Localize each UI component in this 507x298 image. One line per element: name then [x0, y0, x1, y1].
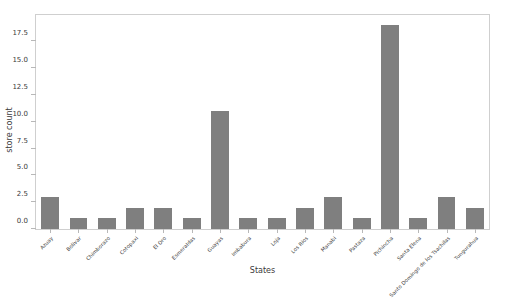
- x-axis-tick-mark: [107, 229, 108, 233]
- x-axis-tick-mark: [305, 229, 306, 233]
- x-axis-title: States: [35, 266, 490, 275]
- bar-slot: Loja: [263, 15, 291, 229]
- x-axis-tick-label: Pastaza: [347, 235, 366, 254]
- bar-slot: Santo Domingo de los Tsachilas: [432, 15, 460, 229]
- bar-slot: Manabi: [319, 15, 347, 229]
- bar-slot: Bolivar: [64, 15, 92, 229]
- bar-slot: Los Rios: [291, 15, 319, 229]
- bar-slot: Guayas: [206, 15, 234, 229]
- bar-slot: Pichincha: [376, 15, 404, 229]
- x-axis-tick-label: Los Rios: [290, 235, 310, 255]
- x-axis-tick-label: Chimborazo: [84, 235, 111, 262]
- x-axis-tick-label: Santa Elena: [396, 235, 423, 262]
- bar: [381, 25, 399, 229]
- x-axis-tick-mark: [135, 229, 136, 233]
- x-axis-tick-mark: [418, 229, 419, 233]
- x-axis-tick-label: Esmeraldas: [170, 235, 196, 261]
- bar-slot: Esmeraldas: [178, 15, 206, 229]
- bar: [126, 208, 144, 229]
- y-axis-tick-label: 5.0: [17, 163, 28, 171]
- x-axis-tick-mark: [163, 229, 164, 233]
- x-axis-tick-label: Cotopaxi: [119, 235, 140, 256]
- x-axis-tick-mark: [78, 229, 79, 233]
- bar-slot: Azuay: [36, 15, 64, 229]
- x-axis-tick-label: Pichincha: [372, 235, 394, 257]
- y-axis-tick-label: 2.5: [17, 190, 28, 198]
- x-axis-tick-label: Tungurahua: [453, 235, 479, 261]
- bar: [268, 218, 286, 229]
- x-axis-tick-mark: [50, 229, 51, 233]
- bar-slot: Santa Elena: [404, 15, 432, 229]
- x-axis-tick-label: El Oro: [152, 235, 168, 251]
- x-axis-tick-mark: [248, 229, 249, 233]
- x-axis-tick-label: Manabi: [320, 235, 338, 253]
- bar: [70, 218, 88, 229]
- x-axis-tick-label: Guayas: [206, 235, 224, 253]
- bar: [211, 111, 229, 229]
- x-axis-tick-label: Azuay: [39, 235, 55, 251]
- bar: [154, 208, 172, 229]
- bar: [409, 218, 427, 229]
- x-axis-tick-mark: [220, 229, 221, 233]
- y-axis-tick-label: 7.5: [17, 137, 28, 145]
- x-axis-tick-label: Loja: [269, 235, 281, 247]
- plot-axes-area: store count 0.02.55.07.510.012.515.017.5…: [35, 14, 490, 230]
- bar: [41, 197, 59, 229]
- x-axis-tick-label: Imbabura: [230, 235, 252, 257]
- bar-slot: Chimborazo: [93, 15, 121, 229]
- x-axis-tick-mark: [447, 229, 448, 233]
- bar-slot: Pastaza: [347, 15, 375, 229]
- x-axis-tick-mark: [475, 229, 476, 233]
- bar: [183, 218, 201, 229]
- bar-slot: Cotopaxi: [121, 15, 149, 229]
- bar: [239, 218, 257, 229]
- y-axis-tick-label: 12.5: [12, 83, 28, 91]
- bar: [324, 197, 342, 229]
- bar-series: AzuayBolivarChimborazoCotopaxiEl OroEsme…: [36, 15, 489, 229]
- bar-slot: El Oro: [149, 15, 177, 229]
- bar-slot: Imbabura: [234, 15, 262, 229]
- bar: [466, 208, 484, 229]
- x-axis-tick-mark: [390, 229, 391, 233]
- y-axis-tick-label: 17.5: [12, 29, 28, 37]
- bar: [353, 218, 371, 229]
- bar: [98, 218, 116, 229]
- x-axis-tick-mark: [192, 229, 193, 233]
- x-axis-tick-label: Bolivar: [65, 235, 82, 252]
- bar: [438, 197, 456, 229]
- x-axis-tick-mark: [362, 229, 363, 233]
- bar-slot: Tungurahua: [461, 15, 489, 229]
- x-axis-tick-mark: [333, 229, 334, 233]
- y-axis-tick-label: 10.0: [12, 110, 28, 118]
- bar: [296, 208, 314, 229]
- y-axis-tick-label: 15.0: [12, 56, 28, 64]
- x-axis-tick-mark: [277, 229, 278, 233]
- y-axis-tick-label: 0.0: [17, 217, 28, 225]
